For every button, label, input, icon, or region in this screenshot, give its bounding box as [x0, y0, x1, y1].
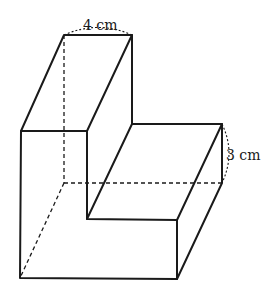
step-height-label: 3 cm: [226, 147, 260, 163]
front-face: [20, 131, 177, 279]
top-width-label: 4 cm: [83, 17, 117, 33]
step-top-face: [87, 124, 222, 220]
tall-top-face: [21, 35, 132, 131]
l-shaped-solid-diagram: 4 cm 3 cm: [0, 0, 275, 301]
step-right-face: [177, 124, 222, 279]
hidden-left-bottom-edge: [20, 183, 64, 278]
visible-edges: [20, 35, 222, 279]
hidden-edges: [20, 35, 222, 278]
